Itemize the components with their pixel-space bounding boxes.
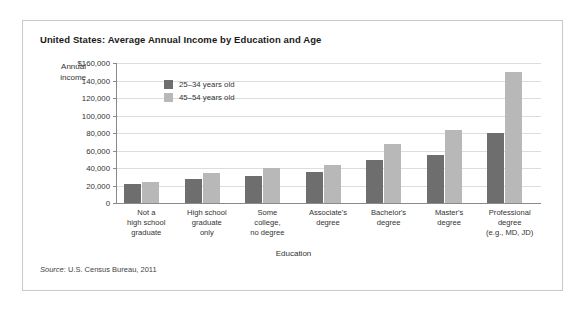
page-title: United States: Average Annual Income by … <box>40 34 321 45</box>
y-axis-tick-label: 60,000 <box>86 146 110 155</box>
chart-legend: 25–34 years old45–54 years old <box>164 80 234 106</box>
x-axis-category-label: Bachelor'sdegree <box>358 208 419 228</box>
x-axis-category-labels: Not ahigh schoolgraduateHigh schoolgradu… <box>116 208 540 248</box>
y-axis-tick-label: 100,000 <box>82 111 110 120</box>
x-axis-category-label: Associate'sdegree <box>298 208 359 228</box>
y-axis-tick-label: 0 <box>106 199 110 208</box>
x-axis-category-label: Master'sdegree <box>419 208 480 228</box>
source-label: Source <box>40 265 64 274</box>
y-axis-tick-mark <box>113 203 117 204</box>
source-note: Source: U.S. Census Bureau, 2011 <box>40 265 157 274</box>
legend-item-1[interactable]: 45–54 years old <box>164 93 234 102</box>
y-axis-tick-label: 80,000 <box>86 129 110 138</box>
bar[interactable] <box>263 168 280 203</box>
x-axis-category-label: Not ahigh schoolgraduate <box>116 208 177 237</box>
legend-swatch-icon <box>164 80 173 89</box>
bar[interactable] <box>427 155 444 203</box>
bar-group <box>299 63 360 203</box>
bar[interactable] <box>366 160 383 203</box>
bar-group <box>238 63 299 203</box>
bar-group <box>480 63 541 203</box>
bar[interactable] <box>203 173 220 203</box>
bar[interactable] <box>505 72 522 203</box>
y-axis-tick-label: 20,000 <box>86 181 110 190</box>
legend-label: 45–54 years old <box>179 93 234 102</box>
x-axis-category-label: High schoolgraduateonly <box>177 208 238 237</box>
bar[interactable] <box>384 144 401 204</box>
x-axis-category-label: Somecollege,no degree <box>237 208 298 237</box>
x-axis-title: Education <box>23 249 564 258</box>
chart-figure: United States: Average Annual Income by … <box>22 20 563 291</box>
y-axis-tick-label: $160,000 <box>77 59 110 68</box>
y-axis-tick-label: 40,000 <box>86 164 110 173</box>
bar-group <box>359 63 420 203</box>
bar[interactable] <box>487 133 504 203</box>
bar[interactable] <box>185 179 202 204</box>
legend-swatch-icon <box>164 93 173 102</box>
bar[interactable] <box>142 182 159 203</box>
bar[interactable] <box>324 165 341 203</box>
x-axis-category-label: Professionaldegree(e.g., MD, JD) <box>479 208 540 237</box>
bar[interactable] <box>245 176 262 203</box>
bar[interactable] <box>445 130 462 203</box>
source-text: : U.S. Census Bureau, 2011 <box>64 265 157 274</box>
bar[interactable] <box>306 172 323 203</box>
plot-area: $160,000140,000120,000100,00080,00060,00… <box>116 63 541 204</box>
legend-label: 25–34 years old <box>179 80 234 89</box>
bar[interactable] <box>124 184 141 203</box>
y-axis-tick-label: 140,000 <box>82 76 110 85</box>
bar-group <box>420 63 481 203</box>
y-axis-tick-label: 120,000 <box>82 94 110 103</box>
legend-item-0[interactable]: 25–34 years old <box>164 80 234 89</box>
